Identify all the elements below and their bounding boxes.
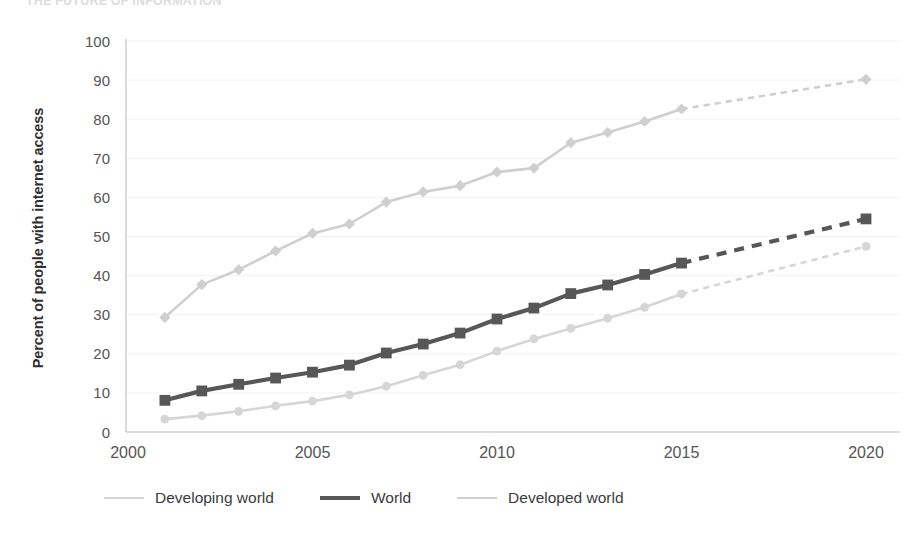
data-point xyxy=(639,269,650,280)
data-point xyxy=(418,186,429,197)
data-point xyxy=(161,415,170,424)
y-tick-label: 90 xyxy=(93,72,110,89)
data-point xyxy=(308,397,317,406)
data-point xyxy=(860,74,871,85)
data-point xyxy=(602,280,613,291)
chart-legend: Developing worldWorldDeveloped world xyxy=(104,489,624,507)
legend-label: Developed world xyxy=(508,489,623,507)
data-point xyxy=(344,218,355,229)
x-tick-label: 2015 xyxy=(664,444,700,461)
y-tick-label: 30 xyxy=(93,306,110,323)
data-point xyxy=(602,127,613,138)
data-point xyxy=(271,401,280,410)
data-point xyxy=(529,303,540,314)
data-point xyxy=(566,324,575,333)
data-point xyxy=(603,314,612,323)
data-point xyxy=(862,242,871,251)
data-point xyxy=(344,360,355,371)
series-line-dashed xyxy=(682,246,867,294)
legend-swatch xyxy=(457,497,497,499)
data-point xyxy=(492,314,503,325)
legend-item-developed-world[interactable]: Developed world xyxy=(457,489,623,507)
data-point xyxy=(270,245,281,256)
series-developing-world xyxy=(161,242,871,424)
data-point xyxy=(530,335,539,344)
data-point xyxy=(345,390,354,399)
data-point xyxy=(677,290,686,299)
data-point xyxy=(455,328,466,339)
data-point xyxy=(640,303,649,312)
x-tick-label: 2020 xyxy=(848,444,884,461)
data-point xyxy=(270,373,281,384)
series-line-solid xyxy=(165,294,682,419)
series-developed-world xyxy=(159,74,871,323)
y-tick-label: 50 xyxy=(93,228,110,245)
series-line-dashed xyxy=(682,219,867,263)
data-point xyxy=(639,116,650,127)
data-point xyxy=(456,360,465,369)
legend-label: World xyxy=(371,489,411,507)
data-point xyxy=(233,264,244,275)
y-tick-label: 70 xyxy=(93,150,110,167)
data-point xyxy=(493,347,502,356)
series-world xyxy=(160,214,872,406)
y-tick-label: 40 xyxy=(93,267,110,284)
data-point xyxy=(565,288,576,299)
data-point xyxy=(418,339,429,350)
data-point xyxy=(197,411,206,420)
data-point xyxy=(233,379,244,390)
y-tick-label: 20 xyxy=(93,345,110,362)
legend-label: Developing world xyxy=(155,489,274,507)
y-tick-label: 0 xyxy=(102,424,110,441)
data-point xyxy=(491,166,502,177)
legend-swatch xyxy=(320,496,360,500)
data-point xyxy=(196,386,207,397)
data-point xyxy=(676,103,687,114)
y-tick-label: 100 xyxy=(85,33,110,50)
data-point xyxy=(234,407,243,416)
data-point xyxy=(307,367,318,378)
series-line-dashed xyxy=(682,79,867,109)
legend-swatch xyxy=(104,497,144,499)
x-tick-label: 2005 xyxy=(295,444,331,461)
y-tick-label: 80 xyxy=(93,111,110,128)
data-point xyxy=(419,371,428,380)
data-point xyxy=(381,197,392,208)
y-tick-label: 60 xyxy=(93,189,110,206)
data-point xyxy=(307,228,318,239)
data-point xyxy=(676,258,687,269)
legend-item-world[interactable]: World xyxy=(320,489,411,507)
data-point xyxy=(455,180,466,191)
x-tick-label: 2000 xyxy=(110,444,146,461)
data-point xyxy=(382,382,391,391)
y-tick-label: 10 xyxy=(93,384,110,401)
data-point xyxy=(861,214,872,225)
chart-container: THE FUTURE OF INFORMATION Percent of peo… xyxy=(0,0,912,533)
x-tick-label: 2010 xyxy=(479,444,515,461)
chart-plot-area: 0102030405060708090100200020052010201520… xyxy=(0,0,912,480)
legend-item-developing-world[interactable]: Developing world xyxy=(104,489,274,507)
data-point xyxy=(160,395,171,406)
data-point xyxy=(381,348,392,359)
